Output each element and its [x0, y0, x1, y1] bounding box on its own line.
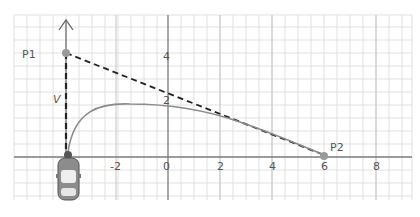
diagram-canvas: P1 P2 V -2 0 2 4 6 8 2 4 — [0, 0, 420, 217]
point-p2 — [320, 152, 328, 160]
x-tick-label: 2 — [217, 160, 224, 173]
x-tick-label: 8 — [373, 160, 380, 173]
y-tick-label: 4 — [163, 50, 170, 63]
y-tick-label: 2 — [163, 94, 170, 107]
x-tick-label: 0 — [163, 160, 170, 173]
x-tick-label: 4 — [269, 160, 276, 173]
x-tick-label: -2 — [110, 160, 121, 173]
p2-label: P2 — [330, 141, 344, 154]
point-p1 — [62, 49, 70, 57]
x-tick-label: 6 — [321, 160, 328, 173]
velocity-label: V — [53, 93, 62, 106]
p1-label: P1 — [22, 48, 36, 61]
car-icon — [56, 158, 81, 200]
trajectory-curve — [68, 104, 324, 155]
